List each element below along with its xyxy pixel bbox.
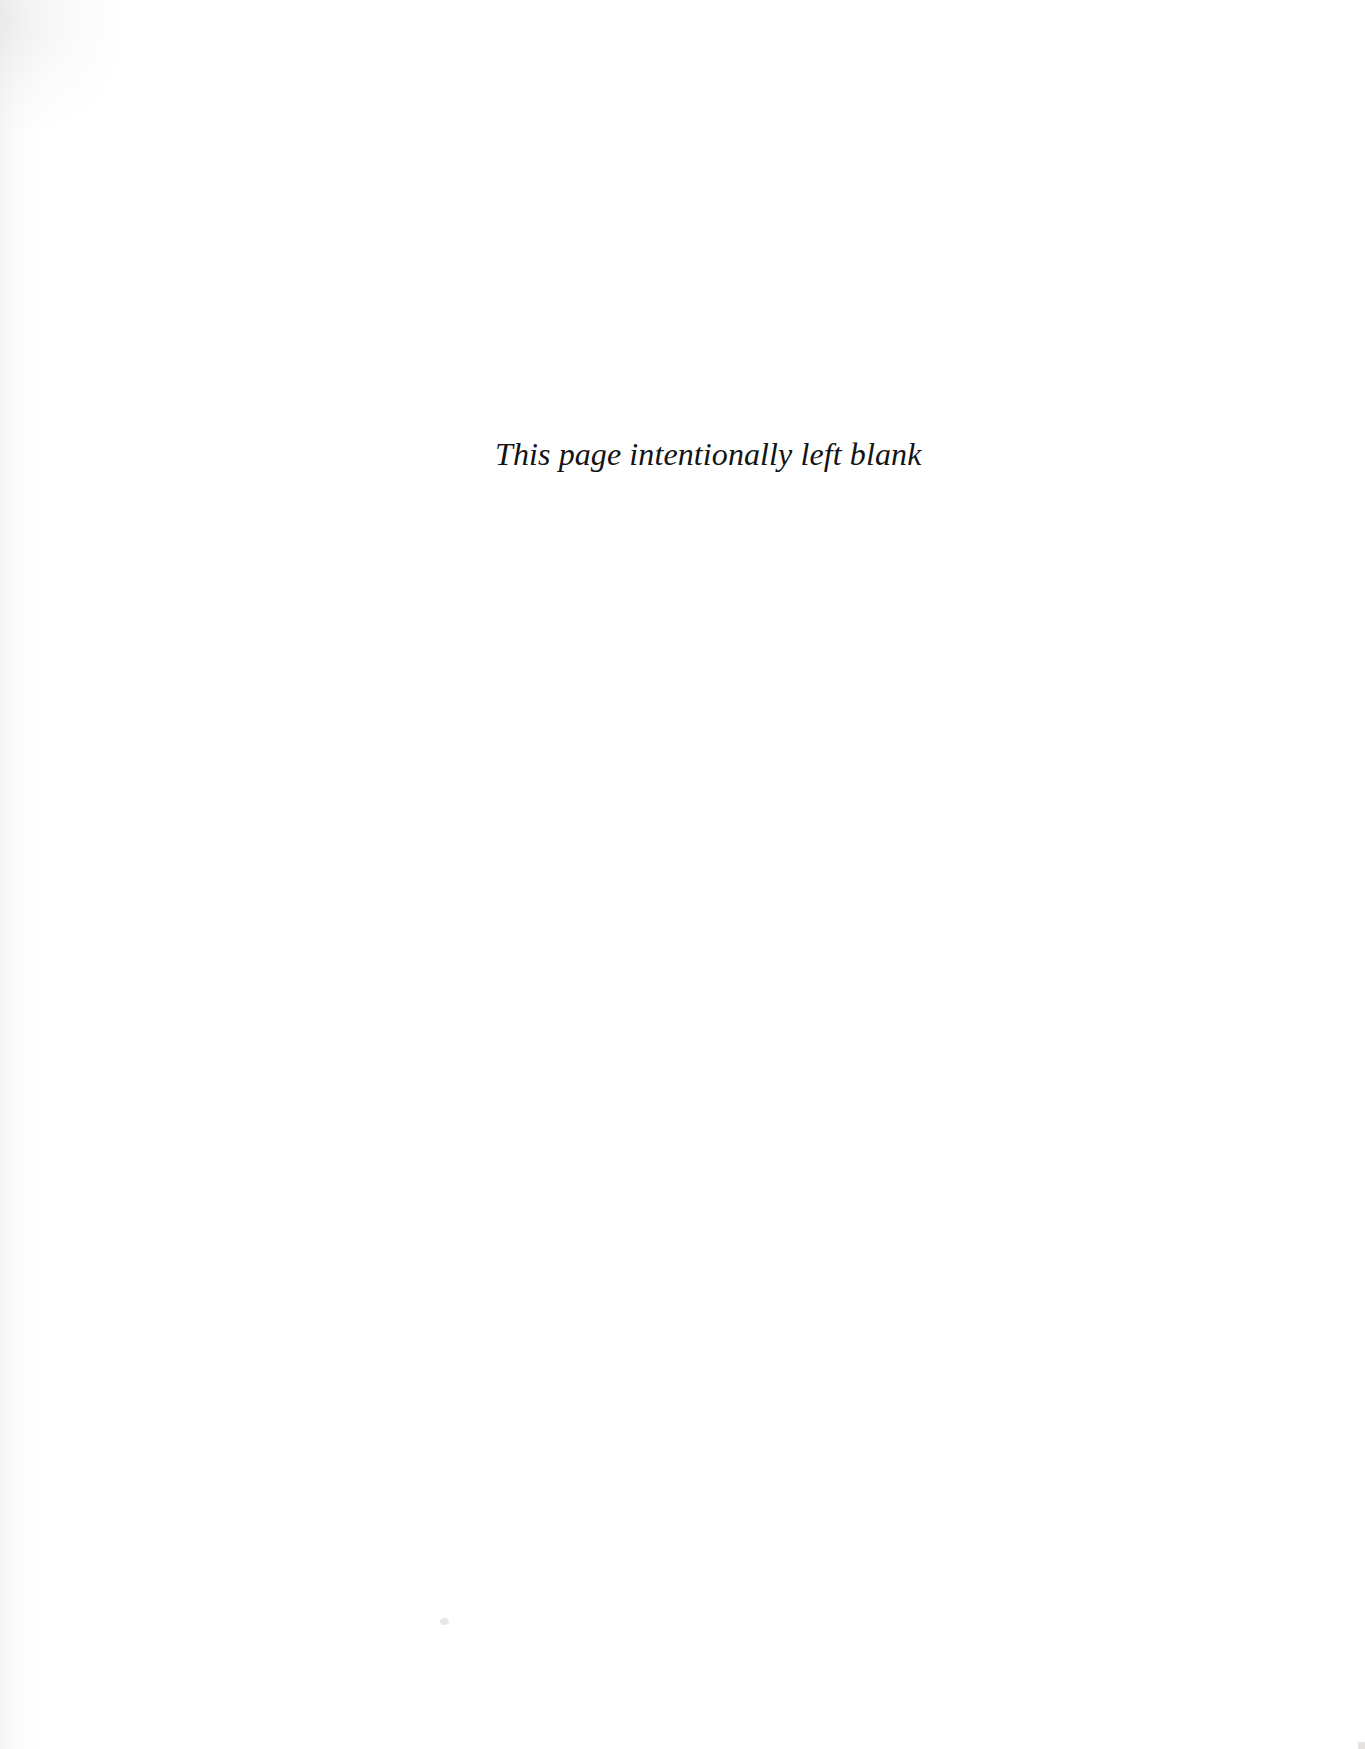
scan-edge-noise [0,0,46,1749]
scan-corner-noise [0,0,120,130]
blank-page-notice: This page intentionally left blank [495,437,919,471]
scanned-page: This page intentionally left blank [0,0,1365,1749]
scan-corner-mark-artifact [1358,1742,1365,1749]
scan-speck-artifact [440,1618,449,1625]
